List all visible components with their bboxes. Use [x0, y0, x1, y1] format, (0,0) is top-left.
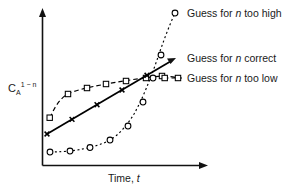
x-axis-label-main: Time, [108, 172, 137, 184]
x-axis-label: Time, t [108, 172, 141, 184]
x-axis-label-symbol: t [137, 172, 141, 184]
square-marker [175, 75, 180, 80]
figure-container: Guess for n too high Guess for n correct… [0, 0, 287, 193]
legend-prefix: Guess for [187, 72, 235, 84]
square-marker [162, 75, 167, 80]
data-point-marker [150, 75, 156, 81]
legend-label-too-low: Guess for n too low [187, 72, 278, 84]
series-too-low [47, 73, 178, 120]
legend-label-too-high: Guess for n too high [187, 7, 282, 19]
series-correct [45, 58, 176, 136]
data-point-marker [45, 132, 50, 137]
data-point-marker [84, 85, 89, 90]
data-point-marker [172, 10, 178, 16]
legend-prefix: Guess for [187, 52, 235, 64]
legend-suffix: correct [241, 52, 276, 64]
data-point-marker [67, 148, 73, 154]
legend-prefix: Guess for [187, 7, 235, 19]
data-point-marker [87, 145, 93, 151]
data-point-marker [47, 115, 52, 120]
data-point-marker [125, 123, 131, 129]
legend-suffix: too low [241, 72, 278, 84]
legend-item-too-high[interactable]: Guess for n too high [187, 7, 282, 19]
data-point-marker [65, 91, 70, 96]
chart-svg: Guess for n too high Guess for n correct… [0, 0, 287, 193]
legend-suffix: too high [241, 7, 281, 19]
y-axis-label-superscript: 1 − n [21, 81, 37, 88]
y-axis-label-base: C [8, 82, 16, 94]
y-axis-label: CA1 − n [8, 81, 36, 96]
axis-labels: Time, t CA1 − n [8, 81, 141, 184]
y-axis-arrowhead [39, 8, 46, 17]
data-point-marker [47, 149, 53, 155]
y-axis-label-subscript: A [16, 89, 21, 96]
legend-item-too-low[interactable]: Guess for n too low [162, 72, 278, 84]
legend-label-correct: Guess for n correct [187, 52, 276, 64]
data-point-marker [140, 99, 146, 105]
data-point-marker [123, 78, 128, 83]
data-point-marker [107, 137, 113, 143]
data-point-marker [103, 81, 108, 86]
x-axis-arrowhead [199, 162, 208, 169]
legend: Guess for n too high Guess for n correct… [162, 7, 282, 84]
legend-item-correct[interactable]: Guess for n correct [187, 52, 276, 64]
data-point-marker [158, 52, 164, 58]
